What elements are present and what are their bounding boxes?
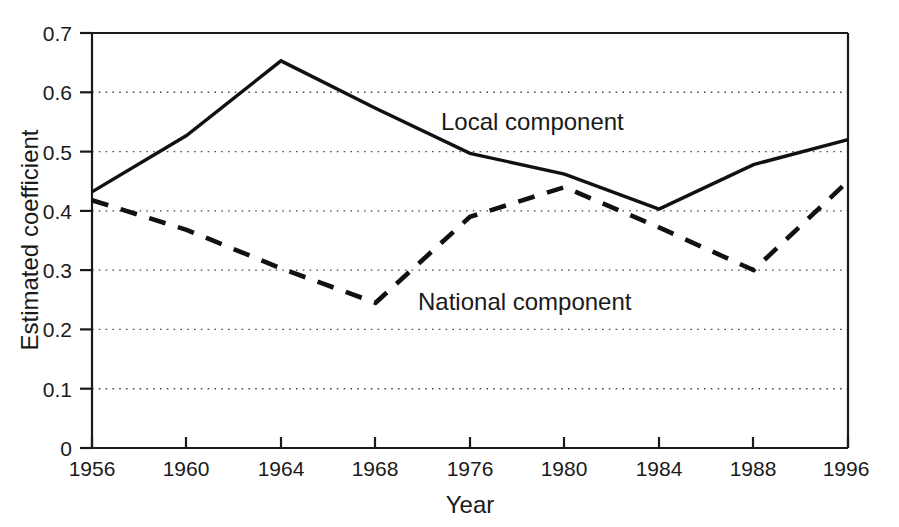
x-tickmarks: [92, 437, 848, 448]
x-tick-labels: 1956 1960 1964 1968 1976 1980 1984 1988 …: [69, 457, 870, 480]
x-tick-label-1960: 1960: [163, 457, 210, 480]
y-tick-label-0.6: 0.6: [43, 81, 72, 104]
x-tick-label-1968: 1968: [352, 457, 399, 480]
y-tickmarks: [80, 33, 92, 448]
gridlines: [92, 92, 848, 388]
x-tick-label-1988: 1988: [730, 457, 777, 480]
y-tick-label-0.5: 0.5: [43, 141, 72, 164]
axis-frame: [92, 33, 848, 448]
y-tick-label-0.4: 0.4: [43, 200, 73, 223]
y-axis-title: Estimated coefficient: [16, 129, 43, 350]
x-tick-label-1976: 1976: [447, 457, 494, 480]
y-tick-label-0.3: 0.3: [43, 259, 72, 282]
x-tick-label-1956: 1956: [69, 457, 116, 480]
x-tick-label-1996: 1996: [823, 457, 870, 480]
x-tick-label-1984: 1984: [636, 457, 683, 480]
series-annotation-national-component: National component: [418, 288, 632, 315]
series-annotation-local-component: Local component: [441, 108, 624, 135]
x-tick-label-1964: 1964: [258, 457, 305, 480]
y-tick-label-0.7: 0.7: [43, 22, 72, 45]
x-axis-title: Year: [446, 491, 495, 518]
y-tick-label-0.1: 0.1: [43, 378, 72, 401]
series-line-national-component: [92, 181, 848, 303]
line-chart: 0.7 0.6 0.5 0.4 0.3 0.2 0.1 0 1956 1960 …: [0, 0, 899, 527]
x-tick-label-1980: 1980: [541, 457, 588, 480]
y-tick-labels: 0.7 0.6 0.5 0.4 0.3 0.2 0.1 0: [43, 22, 73, 460]
chart-page: 0.7 0.6 0.5 0.4 0.3 0.2 0.1 0 1956 1960 …: [0, 0, 899, 527]
y-tick-label-0.2: 0.2: [43, 318, 72, 341]
